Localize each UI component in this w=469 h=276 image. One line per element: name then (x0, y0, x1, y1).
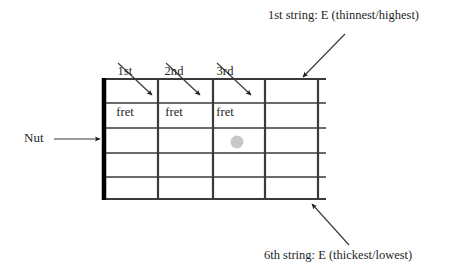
fret-1-label-line1: 1st (104, 65, 146, 79)
fret-2-label-line1: 2nd (152, 65, 196, 79)
string-1-label: 1st string: E (thinnest/highest) (268, 9, 419, 23)
fret-2-label: 2nd fret (152, 38, 196, 146)
fretboard-diagram-canvas: 1st fret 2nd fret 3rd fret Nut 1st strin… (0, 0, 469, 276)
fret-2-label-line2: fret (152, 106, 196, 120)
fret-3-label: 3rd fret (203, 38, 247, 146)
fret-1-label-line2: fret (104, 106, 146, 120)
annotation-arrows-group (54, 34, 349, 245)
string-6-label: 6th string: E (thickest/lowest) (264, 249, 412, 263)
fret-3-label-line1: 3rd (203, 65, 247, 79)
arrow-string-1 (303, 34, 345, 77)
fret-1-label: 1st fret (104, 38, 146, 146)
nut-label: Nut (24, 131, 44, 145)
fret-3-label-line2: fret (203, 106, 247, 120)
arrow-string-6 (312, 204, 349, 245)
